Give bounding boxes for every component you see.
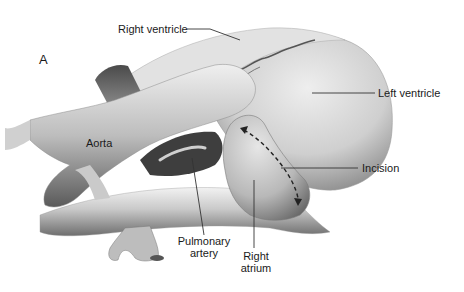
vessel-opening <box>150 255 164 261</box>
label-pulmonary-artery: Pulmonary artery <box>176 235 232 259</box>
label-left-ventricle: Left ventricle <box>378 87 440 99</box>
label-right-atrium-line2: atrium <box>236 262 276 274</box>
panel-letter: A <box>39 52 48 67</box>
label-pulmonary-artery-line1: Pulmonary <box>176 235 232 247</box>
label-incision: Incision <box>362 162 399 174</box>
heart-anatomy-illustration: A Right ventricle Left ventricle Aorta I… <box>0 0 464 292</box>
heart-drawing <box>0 0 464 292</box>
label-aorta: Aorta <box>86 137 112 149</box>
label-right-atrium: Right atrium <box>236 250 276 274</box>
label-right-atrium-line1: Right <box>236 250 276 262</box>
label-pulmonary-artery-line2: artery <box>176 247 232 259</box>
label-right-ventricle: Right ventricle <box>118 23 188 35</box>
aorta-branch <box>5 120 30 150</box>
